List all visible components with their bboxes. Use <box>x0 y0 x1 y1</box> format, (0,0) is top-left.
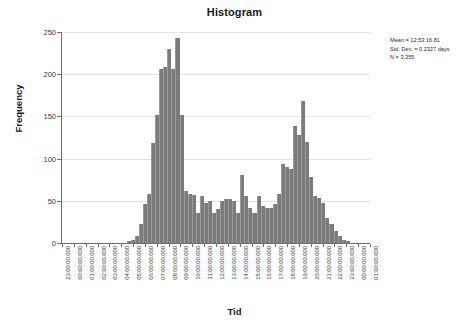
x-axis-title: Tid <box>0 306 469 317</box>
x-tick-label: 03:00:00.000 <box>112 246 118 280</box>
stddev-stat: Std. Dev. = 0.2327 days <box>390 45 468 54</box>
x-tick-label: 09:00:00.000 <box>183 246 189 280</box>
x-axis-tick-labels: 23:00:00.00000:00:00.00001:00:00.00002:0… <box>62 246 370 304</box>
chart-title: Histogram <box>0 6 469 18</box>
x-tick-label: 05:00:00.000 <box>136 246 142 280</box>
mean-stat: Mean = 12:53:16.81 <box>390 36 468 45</box>
x-tick-label: 01:00:00.000 <box>89 246 95 280</box>
x-tick-label: 00:00:00.000 <box>361 246 367 280</box>
x-tick-label: 15:00:00.000 <box>255 246 261 280</box>
x-tick-label: 18:00:00.000 <box>290 246 296 280</box>
x-tick-label: 17:00:00.000 <box>278 246 284 280</box>
histogram-figure: Histogram 050100150200250 Frequency 23:0… <box>0 0 469 327</box>
plot-area <box>62 32 370 243</box>
statistics-annotation: Mean = 12:53:16.81 Std. Dev. = 0.2327 da… <box>390 36 468 62</box>
n-stat: N = 3,355 <box>390 53 468 62</box>
x-tick-label: 23:00:00.000 <box>349 246 355 280</box>
x-tick-label: 14:00:00.000 <box>243 246 249 280</box>
x-tick-label: 04:00:00.000 <box>124 246 130 280</box>
y-axis-tick-marks <box>0 32 62 243</box>
x-tick-label: 06:00:00.000 <box>148 246 154 280</box>
x-tick-label: 00:00:00.000 <box>77 246 83 280</box>
x-tick-label: 02:00:00.000 <box>101 246 107 280</box>
x-tick-label: 12:00:00.000 <box>219 246 225 280</box>
x-tick-label: 07:00:00.000 <box>160 246 166 280</box>
x-tick-label: 23:00:00.000 <box>65 246 71 280</box>
x-tick-label: 22:00:00.000 <box>337 246 343 280</box>
x-tick-label: 08:00:00.000 <box>172 246 178 280</box>
histogram-bars <box>62 32 370 243</box>
x-tick-label: 20:00:00.000 <box>314 246 320 280</box>
x-tick-label: 11:00:00.000 <box>207 246 213 279</box>
y-axis-title: Frequency <box>13 49 24 169</box>
x-tick-label: 13:00:00.000 <box>231 246 237 280</box>
x-tick-mark <box>370 244 371 247</box>
x-tick-label: 21:00:00.000 <box>326 246 332 280</box>
x-tick-label: 01:00:00.000 <box>373 246 379 280</box>
x-tick-label: 19:00:00.000 <box>302 246 308 280</box>
x-tick-label: 16:00:00.000 <box>266 246 272 280</box>
x-tick-label: 10:00:00.000 <box>195 246 201 280</box>
